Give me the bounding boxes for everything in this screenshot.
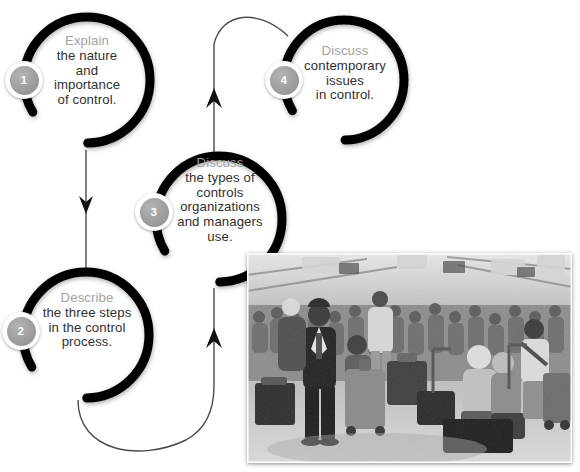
node-3-text: Discuss the types of controls organizati…: [150, 156, 290, 245]
step-badge-4[interactable]: 4: [265, 61, 303, 99]
node-4-lead: Discuss: [281, 44, 409, 59]
step-badge-3[interactable]: 3: [135, 193, 173, 231]
airport-crowd-photo: [247, 253, 572, 463]
node-1-body: the nature and importance of control.: [54, 48, 120, 107]
node-1-lead: Explain: [17, 34, 157, 49]
step-badge-3-number: 3: [140, 198, 169, 227]
node-4-body: contemporary issues in control.: [304, 58, 386, 103]
step-badge-1[interactable]: 1: [5, 61, 43, 99]
node-3-body: the types of controls organizations and …: [177, 170, 263, 244]
diagram-canvas: Explain the nature and importance of con…: [0, 0, 580, 472]
step-badge-1-number: 1: [10, 66, 39, 95]
step-badge-2[interactable]: 2: [2, 312, 40, 350]
node-3-lead: Discuss: [150, 156, 290, 171]
node-2-lead: Describe: [16, 291, 158, 306]
step-badge-4-number: 4: [270, 66, 299, 95]
step-badge-2-number: 2: [7, 317, 36, 346]
photo-content: [247, 253, 572, 463]
node-2-body: the three steps in the control process.: [43, 305, 132, 350]
